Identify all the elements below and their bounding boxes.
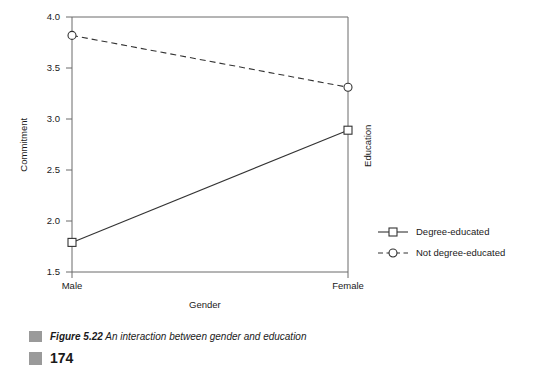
y-tick-label-3-5: 3.5 [26,63,60,73]
data-point-not-degree-educated-female [344,83,352,91]
caption-figure-number: Figure 5.22 [50,331,103,342]
y-tick-label-1-5: 1.5 [26,267,60,277]
data-point-degree-educated-female [344,126,352,134]
legend-label-degree-educated: Degree-educated [416,227,489,237]
interaction-plot [0,0,536,367]
page-number-block: 174 [29,350,73,366]
legend-label-not-degree-educated: Not degree-educated [416,248,505,258]
x-axis-title: Gender [189,300,221,310]
x-tick-label-female: Female [313,281,383,291]
data-point-not-degree-educated-male [68,31,76,39]
series-line-degree-educated [72,130,348,242]
figure-caption: Figure 5.22 An interaction between gende… [29,331,307,342]
data-point-degree-educated-male [68,238,76,246]
y-tick-label-2-0: 2.0 [26,216,60,226]
y-tick-label-4-0: 4.0 [26,12,60,22]
page-number: 174 [50,350,73,366]
y-axis-title: Commitment [19,105,29,185]
figure-container: 4.0 3.5 3.0 2.5 2.0 1.5 Male Female Comm… [0,0,536,367]
y2-axis-title: Education [363,106,373,186]
caption-text-wrap: Figure 5.22 An interaction between gende… [50,331,307,342]
series-line-not-degree-educated [72,35,348,87]
x-axis-ticks [72,272,348,278]
y-tick-label-3-0: 3.0 [26,114,60,124]
y-axis-ticks [66,17,72,272]
legend-key-not-degree-educated [378,249,408,257]
y-tick-label-2-5: 2.5 [26,165,60,175]
page-bullet-icon [29,352,42,365]
caption-bullet-icon [29,331,42,342]
legend-key-degree-educated [378,228,408,236]
x-tick-label-male: Male [37,281,107,291]
caption-description: An interaction between gender and educat… [105,331,306,342]
